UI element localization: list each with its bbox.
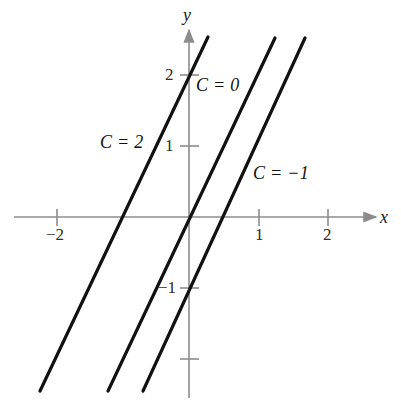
y-tick-label-2: 2 <box>165 66 174 83</box>
curve-label-c-equals-2: C = 2 <box>100 133 144 151</box>
curve-label-c-equals-0: C = 0 <box>196 76 240 94</box>
curve-c-equals-2 <box>40 37 208 391</box>
x-axis-label: x <box>380 208 388 226</box>
y-tick-label-neg1: −1 <box>158 279 176 296</box>
y-axis-label: y <box>183 6 191 24</box>
x-tick-label-2: 2 <box>323 226 332 243</box>
plot-canvas <box>0 0 401 410</box>
curve-c-equals-0 <box>108 38 275 391</box>
x-tick-label-neg2: −2 <box>46 226 64 243</box>
level-curves-figure: y x −2 1 2 2 1 −1 C = 2 C = 0 C = −1 <box>0 0 401 410</box>
x-tick-label-1: 1 <box>255 226 264 243</box>
y-tick-label-1: 1 <box>165 137 174 154</box>
curve-label-c-equals-minus-1: C = −1 <box>253 164 309 182</box>
